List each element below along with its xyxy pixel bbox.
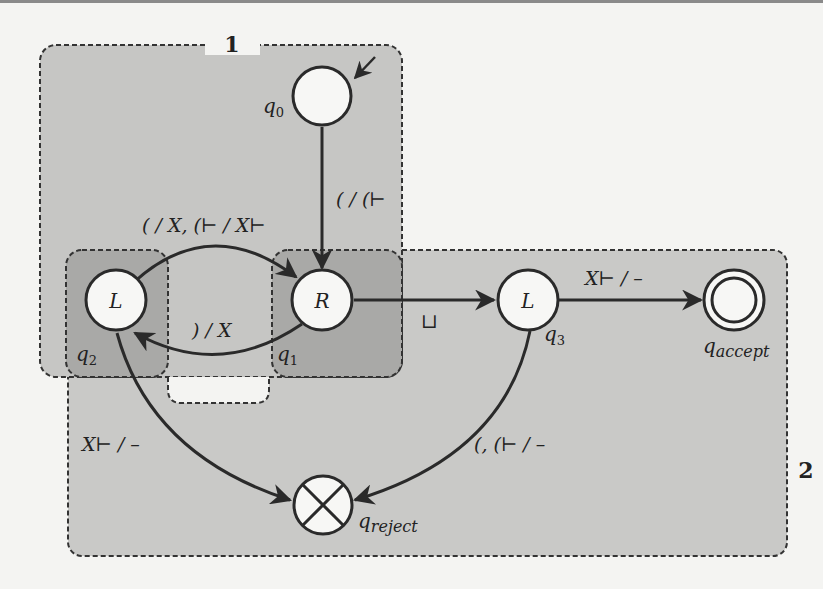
label-edge-q2-q1: ( / X, (⊢ / X⊢: [142, 214, 266, 236]
label-edge-q3-reject: (, (⊢ / –: [474, 433, 545, 455]
label-edge-q2-reject: X⊢ / –: [80, 433, 140, 455]
state-qreject[interactable]: [294, 476, 352, 534]
label-edge-q1-q3: ⊔: [421, 309, 438, 333]
state-q3-action: L: [520, 289, 534, 313]
label-edge-q1-q2: ) / X: [191, 319, 233, 341]
state-q2-action: L: [108, 289, 122, 313]
state-qaccept[interactable]: [704, 270, 764, 330]
state-q3[interactable]: L: [498, 270, 558, 330]
state-q0[interactable]: [293, 67, 351, 125]
region-2-label: 2: [798, 457, 813, 483]
state-q1[interactable]: R: [292, 270, 352, 330]
gap-region: [168, 377, 269, 403]
label-edge-q3-accept: X⊢ / –: [583, 267, 643, 289]
state-q2[interactable]: L: [86, 270, 146, 330]
region-1-label: 1: [224, 31, 239, 57]
label-edge-q0-q1: ( / (⊢: [336, 188, 386, 210]
state-diagram: 1 2 R L L q0 q1 q2 q3 qaccept qreject ( …: [0, 0, 823, 589]
state-q1-action: R: [313, 289, 329, 313]
